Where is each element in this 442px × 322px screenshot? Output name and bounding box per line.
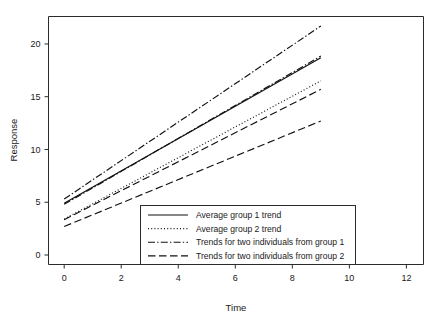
- y-tick-label: 5: [35, 197, 40, 207]
- y-axis-title: Response: [8, 119, 19, 162]
- x-tick-label: 0: [62, 273, 67, 283]
- x-tick-label: 10: [344, 273, 354, 283]
- chart-figure: 024681012 05101520 Time Response Average…: [0, 0, 442, 322]
- x-tick-label: 6: [233, 273, 238, 283]
- legend-label: Average group 1 trend: [196, 210, 282, 220]
- x-tick-label: 4: [176, 273, 181, 283]
- x-tick-label: 2: [119, 273, 124, 283]
- y-tick-label: 20: [30, 39, 40, 49]
- x-axis-title: Time: [226, 302, 247, 313]
- y-tick-label: 15: [30, 92, 40, 102]
- chart-legend: Average group 1 trendAverage group 2 tre…: [141, 206, 356, 265]
- legend-label: Trends for two individuals from group 1: [196, 237, 344, 247]
- y-tick-label: 10: [30, 145, 40, 155]
- y-tick-label: 0: [35, 250, 40, 260]
- legend-label: Trends for two individuals from group 2: [196, 251, 344, 261]
- x-tick-label: 12: [401, 273, 411, 283]
- chart-canvas: 024681012 05101520 Time Response Average…: [0, 0, 442, 322]
- legend-label: Average group 2 trend: [196, 224, 282, 234]
- x-tick-label: 8: [290, 273, 295, 283]
